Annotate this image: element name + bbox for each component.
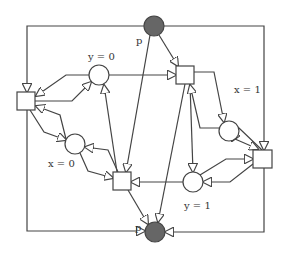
place-label-x0: x = 0 xyxy=(48,158,75,169)
arc-x1-to-t_topright xyxy=(190,85,220,128)
arc-t_botmid-to-p_bot xyxy=(128,190,148,224)
arc-t_right-to-y1 xyxy=(203,164,253,182)
arc-p_top-to-t_left xyxy=(27,26,144,92)
transition-t_topright xyxy=(176,66,194,84)
arc-y0-to-t_left xyxy=(36,75,89,96)
place-y1 xyxy=(183,172,203,192)
arc-p_top-to-t_topright xyxy=(159,35,178,66)
place-p_top xyxy=(144,16,164,36)
place-y0 xyxy=(89,65,109,85)
place-label-y0: y = 0 xyxy=(87,51,115,62)
arc-p_top-to-t_botmid xyxy=(126,35,150,172)
transition-t_botmid xyxy=(113,172,131,190)
arc-x1-to-t_right xyxy=(235,139,258,149)
arc-y1-to-t_right xyxy=(200,159,253,175)
transition-t_right xyxy=(253,150,272,168)
arc-t_left-to-x0 xyxy=(30,110,66,140)
transition-t_left xyxy=(17,92,35,110)
arc-t_botmid-to-y0 xyxy=(104,85,117,172)
arc-t_topright-to-x1 xyxy=(193,72,224,122)
place-label-p_top: p xyxy=(136,35,142,46)
petri-net-diagram: ppy = 0x = 0x = 1y = 1 xyxy=(0,0,289,255)
place-label-y1: y = 1 xyxy=(183,200,211,211)
place-label-x1: x = 1 xyxy=(234,84,261,95)
place-p_bot xyxy=(145,222,165,242)
arc-t_left-to-p_bot xyxy=(27,110,145,231)
place-label-p_bot: p xyxy=(135,222,141,233)
arc-t_topright-to-p_bot xyxy=(158,84,185,222)
arc-x0-to-t_botmid xyxy=(80,153,113,178)
place-x1 xyxy=(219,121,239,141)
place-x0 xyxy=(65,134,85,154)
arc-t_botmid-to-x0 xyxy=(85,147,118,172)
places-layer xyxy=(65,16,239,242)
arc-t_right-to-p_bot xyxy=(165,168,264,232)
